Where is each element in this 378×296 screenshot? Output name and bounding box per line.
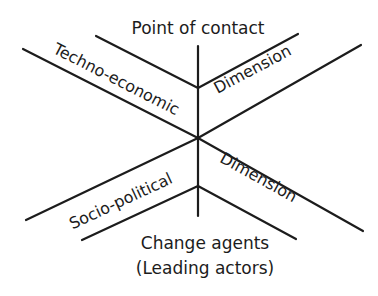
lower-right-arm-label: Dimension (217, 148, 301, 206)
bottom-label-line1: Change agents (141, 233, 270, 253)
point-of-contact-diagram: Point of contact Techno-economic Dimensi… (0, 0, 378, 296)
bottom-label-line2: (Leading actors) (136, 258, 274, 278)
lower-left-arm-label: Socio-political (66, 169, 175, 233)
top-label: Point of contact (131, 18, 264, 38)
upper-left-arm-label: Techno-economic (49, 39, 182, 120)
diagram-canvas: Point of contact Techno-economic Dimensi… (0, 0, 378, 296)
upper-left-outer-line (23, 49, 198, 138)
